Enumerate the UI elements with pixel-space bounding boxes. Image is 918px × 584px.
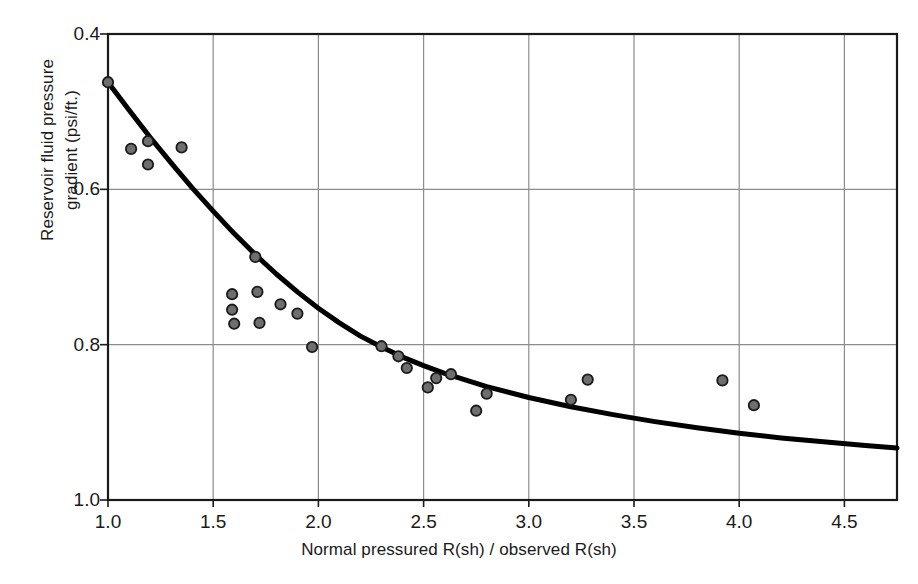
data-points [103,77,759,416]
data-point-marker [393,351,403,361]
gridlines [108,34,897,500]
data-point-marker [402,363,412,373]
data-point-marker [250,252,260,262]
data-point-marker [176,142,186,152]
chart-figure: Reservoir fluid pressure gradient (psi/f… [0,0,918,584]
trend-curve-path [108,82,897,448]
data-point-marker [229,319,239,329]
data-point-marker [254,318,264,328]
data-point-marker [566,395,576,405]
data-point-marker [307,342,317,352]
axis-tick-marks [100,34,844,507]
data-point-marker [423,382,433,392]
plot-frame [108,34,897,500]
data-point-marker [431,373,441,383]
trend-curve [108,82,897,448]
data-point-marker [471,406,481,416]
data-point-marker [103,77,113,87]
data-point-marker [227,305,237,315]
data-point-marker [143,159,153,169]
data-point-marker [376,341,386,351]
data-point-marker [749,400,759,410]
data-point-marker [717,375,727,385]
axis-frame [108,34,897,500]
plot-area [0,0,918,584]
data-point-marker [143,136,153,146]
data-point-marker [275,299,285,309]
data-point-marker [252,287,262,297]
data-point-marker [292,308,302,318]
data-point-marker [227,289,237,299]
x-axis-title: Normal pressured R(sh) / observed R(sh) [0,540,918,560]
data-point-marker [482,388,492,398]
data-point-marker [583,374,593,384]
data-point-marker [446,369,456,379]
data-point-marker [126,144,136,154]
